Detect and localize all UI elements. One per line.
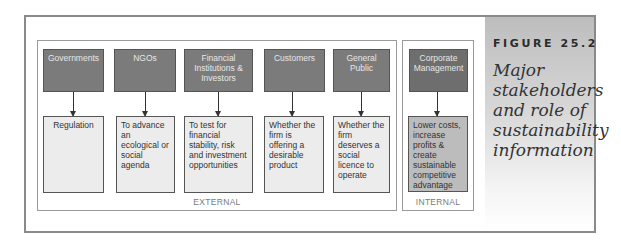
stakeholder-corporate-management: Corporate Management <box>409 49 468 92</box>
stakeholder-financial-institutions: Financial Institutions & Investors <box>184 49 253 92</box>
role-governments: Regulation <box>43 116 104 193</box>
figure-number: FIGURE 25.2 <box>493 37 598 50</box>
arrow-icon <box>292 92 293 116</box>
role-ngos: To advance an ecological or social agend… <box>116 116 175 193</box>
internal-label: INTERNAL <box>403 197 473 207</box>
arrow-icon <box>437 92 438 116</box>
role-corporate-management: Lower costs, increase profits & create s… <box>408 116 468 192</box>
arrow-icon <box>361 92 362 116</box>
figure-title: Major stakeholders and role of sustainab… <box>493 60 593 160</box>
role-general-public: Whether the firm deserves a social licen… <box>333 116 390 193</box>
arrow-icon <box>145 92 146 116</box>
stakeholder-governments: Governments <box>43 49 104 92</box>
external-label: EXTERNAL <box>38 197 396 207</box>
stakeholder-ngos: NGOs <box>114 49 176 92</box>
role-customers: Whether the firm is offering a desirable… <box>264 116 324 193</box>
arrow-icon <box>73 92 74 116</box>
arrow-icon <box>218 92 219 116</box>
stakeholder-customers: Customers <box>264 49 325 92</box>
role-financial-institutions: To test for financial stability, risk an… <box>184 116 253 193</box>
stakeholder-general-public: General Public <box>333 49 390 92</box>
